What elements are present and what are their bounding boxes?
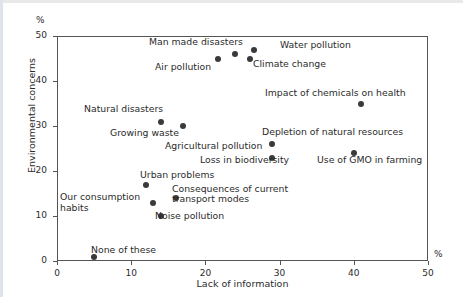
top-divider [0, 0, 463, 3]
y-tick-label: 20 [25, 165, 47, 175]
y-tick-label: 0 [25, 255, 47, 265]
point-label-water-pollution: Water pollution [280, 40, 351, 51]
x-tick-label: 30 [268, 268, 292, 278]
y-tick-label: 30 [25, 120, 47, 130]
x-axis-unit: % [434, 249, 443, 259]
x-tick-mark [131, 261, 132, 265]
y-tick-label: 40 [25, 75, 47, 85]
point-label-air-pollution: Air pollution [155, 62, 211, 73]
x-tick-label: 50 [416, 268, 440, 278]
point-label-agricultural-pollution: Agricultural pollution [165, 141, 262, 152]
point-label-our-consumption-line2: habits [60, 203, 89, 214]
data-point [358, 101, 364, 107]
x-tick-mark [280, 261, 281, 265]
chart-stage: % % Environmental concerns Lack of infor… [0, 0, 463, 297]
point-label-none-of-these: None of these [91, 245, 156, 256]
y-tick-mark [53, 36, 57, 37]
data-point [158, 119, 164, 125]
point-label-our-consumption-line1: Our consumption [60, 192, 140, 203]
point-label-growing-waste: Growing waste [110, 128, 179, 139]
x-tick-mark [354, 261, 355, 265]
y-axis-unit: % [36, 15, 45, 25]
x-tick-label: 10 [119, 268, 143, 278]
point-label-climate-change: Climate change [253, 59, 326, 70]
point-label-natural-disasters: Natural disasters [84, 104, 163, 115]
x-tick-mark [205, 261, 206, 265]
point-label-depletion-resources: Depletion of natural resources [262, 127, 403, 138]
x-tick-label: 20 [193, 268, 217, 278]
data-point [143, 182, 149, 188]
point-label-impact-chemicals: Impact of chemicals on health [265, 88, 406, 99]
x-tick-label: 0 [45, 268, 69, 278]
data-point [215, 56, 221, 62]
point-label-loss-in-biodiversity: Loss in biodiversity [200, 155, 289, 166]
y-tick-label: 10 [25, 210, 47, 220]
y-tick-mark [53, 81, 57, 82]
point-label-noise-pollution: Noise pollution [155, 211, 224, 222]
y-tick-label: 50 [25, 30, 47, 40]
data-point [251, 47, 257, 53]
y-tick-mark [53, 171, 57, 172]
point-label-consequences-transport-line2: transport modes [172, 194, 249, 205]
x-tick-mark [428, 261, 429, 265]
x-axis-title: Lack of information [57, 278, 428, 289]
y-tick-mark [53, 126, 57, 127]
data-point [247, 56, 253, 62]
point-label-man-made-disasters: Man made disasters [149, 37, 243, 48]
left-divider [0, 0, 3, 297]
x-tick-mark [57, 261, 58, 265]
point-label-use-of-gmo: Use of GMO in farming [317, 155, 422, 166]
point-label-urban-problems: Urban problems [140, 170, 214, 181]
y-tick-mark [53, 216, 57, 217]
x-tick-label: 40 [342, 268, 366, 278]
